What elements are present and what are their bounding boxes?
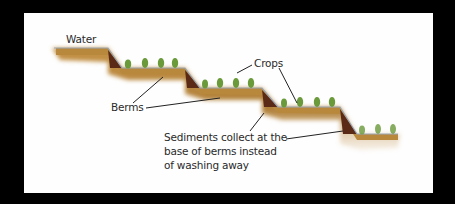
label-sediments-2: base of berms instead [164, 144, 277, 158]
label-sediments-1: Sediments collect at the [164, 130, 287, 144]
label-water: Water [66, 32, 96, 46]
terrace-illustration [0, 0, 455, 204]
label-berms: Berms [111, 100, 144, 114]
crop-icon [125, 58, 178, 69]
label-sediments-3: of washing away [164, 158, 249, 172]
label-crops: Crops [254, 56, 283, 70]
